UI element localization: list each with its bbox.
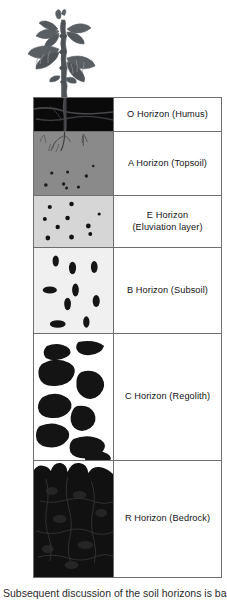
soil-horizons-figure: O Horizon (Humus) xyxy=(0,0,227,601)
topsoil-layer-graphic xyxy=(34,132,113,195)
horizon-label-e-text-line1: E Horizon xyxy=(132,210,202,222)
horizon-label-r: R Horizon (Bedrock) xyxy=(114,461,221,577)
horizon-visual-b xyxy=(34,248,114,333)
caption-clipped: Subsequent discussion of the soil horizo… xyxy=(0,589,227,601)
horizon-label-a: A Horizon (Topsoil) xyxy=(114,132,221,195)
horizon-visual-a xyxy=(34,132,114,195)
horizon-label-o-text: O Horizon (Humus) xyxy=(127,109,208,121)
horizon-row-a: A Horizon (Topsoil) xyxy=(34,132,221,195)
horizon-row-o: O Horizon (Humus) xyxy=(34,98,221,131)
regolith-layer-graphic xyxy=(34,334,113,460)
plant-icon xyxy=(14,2,114,100)
horizon-row-r: R Horizon (Bedrock) xyxy=(34,461,221,577)
horizon-label-e-text-line2: (Eluviation layer) xyxy=(132,222,202,234)
horizon-label-c: C Horizon (Regolith) xyxy=(114,334,221,460)
horizon-visual-o xyxy=(34,98,114,131)
horizon-visual-e xyxy=(34,196,114,247)
horizon-label-e: E Horizon (Eluviation layer) xyxy=(114,196,221,247)
subsoil-layer-graphic xyxy=(34,248,113,333)
horizon-row-c: C Horizon (Regolith) xyxy=(34,334,221,460)
horizon-row-b: B Horizon (Subsoil) xyxy=(34,248,221,333)
eluviation-layer-graphic xyxy=(34,196,113,247)
horizon-label-r-text: R Horizon (Bedrock) xyxy=(125,513,210,525)
soil-profile-table: O Horizon (Humus) xyxy=(33,97,222,578)
horizon-label-o: O Horizon (Humus) xyxy=(114,98,221,131)
horizon-label-a-text: A Horizon (Topsoil) xyxy=(128,158,207,170)
bedrock-layer-graphic xyxy=(34,461,113,577)
horizon-visual-c xyxy=(34,334,114,460)
plant-illustration xyxy=(14,2,114,100)
horizon-label-b-text: B Horizon (Subsoil) xyxy=(127,285,208,297)
horizon-visual-r xyxy=(34,461,114,577)
horizon-row-e: E Horizon (Eluviation layer) xyxy=(34,196,221,247)
horizon-label-b: B Horizon (Subsoil) xyxy=(114,248,221,333)
caption-text: Subsequent discussion of the soil horizo… xyxy=(3,589,227,600)
humus-layer-graphic xyxy=(34,98,113,131)
horizon-label-c-text: C Horizon (Regolith) xyxy=(125,391,210,403)
